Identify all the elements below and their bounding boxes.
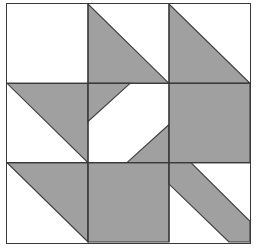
- quilt-block-image: [0, 0, 258, 250]
- quilt-cell-2-3: [169, 83, 250, 162]
- quilt-nine-patch-grid: [7, 4, 252, 245]
- quilt-patch-solid-dark-1: [169, 83, 250, 162]
- quilt-svg-canvas: [7, 4, 250, 243]
- quilt-cell-3-2: [88, 163, 169, 242]
- quilt-outer-frame: [6, 3, 251, 244]
- quilt-patch-solid-dark-1: [88, 163, 169, 242]
